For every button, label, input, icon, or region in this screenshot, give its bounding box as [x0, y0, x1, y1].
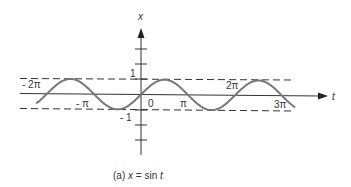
- upper-bound-dashed-line: [20, 79, 292, 81]
- y-tick-label-1: 1: [130, 68, 136, 79]
- tick-label-3pi: 3π: [274, 99, 287, 110]
- t-axis: [20, 94, 322, 97]
- x-axis-label: x: [137, 11, 144, 22]
- tick-label-zero: 0: [148, 98, 154, 109]
- tick-label-neg-2pi: - 2π: [22, 79, 41, 90]
- tick-label-2pi: 2π: [226, 80, 239, 91]
- t-axis-label: t: [332, 91, 336, 102]
- tick-label-neg-pi: - π: [76, 98, 89, 109]
- y-tick-label-neg-1: - 1: [120, 112, 132, 123]
- lower-bound-dashed-line: [20, 109, 292, 112]
- x-axis-arrow-icon: [138, 28, 145, 38]
- chart-caption: (a) x = sin t: [113, 170, 164, 181]
- tick-label-pi: π: [180, 98, 187, 109]
- sine-chart: x t - 2π - π 0 π 2π 3π 1 - 1 (a) x = sin…: [0, 0, 351, 187]
- t-axis-arrow-icon: [318, 93, 328, 100]
